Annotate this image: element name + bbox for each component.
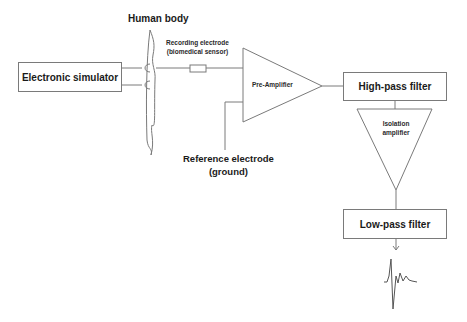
recording-electrode-line1: Recording electrode	[166, 38, 229, 47]
low-pass-filter-label: Low-pass filter	[360, 219, 431, 230]
reference-electrode-line2: (ground)	[183, 165, 274, 178]
reference-electrode-line1: Reference electrode	[183, 152, 274, 165]
recording-electrode-line2: (biomedical sensor)	[166, 47, 229, 56]
human-body-label: Human body	[128, 13, 189, 24]
wire-reference-electrode	[225, 102, 243, 150]
isolation-amplifier-label: Isolation amplifier	[380, 119, 412, 137]
electrode-contact-bottom-icon	[145, 81, 150, 89]
high-pass-filter-box: High-pass filter	[343, 72, 447, 101]
isolation-amplifier-line2: amplifier	[380, 128, 412, 137]
ecg-waveform-icon	[384, 259, 417, 309]
recording-electrode-label: Recording electrode (biomedical sensor)	[166, 38, 229, 56]
high-pass-filter-label: High-pass filter	[359, 81, 432, 92]
human-body-outline	[146, 30, 155, 155]
isolation-amplifier-line1: Isolation	[380, 119, 412, 128]
low-pass-filter-box: Low-pass filter	[343, 209, 447, 239]
preamp-label: Pre-Amplifier	[252, 80, 293, 89]
recording-electrode-resistor-icon	[190, 65, 206, 72]
reference-electrode-label: Reference electrode (ground)	[183, 152, 274, 178]
electronic-simulator-label: Electronic simulator	[22, 72, 118, 83]
electronic-simulator-box: Electronic simulator	[18, 62, 122, 92]
